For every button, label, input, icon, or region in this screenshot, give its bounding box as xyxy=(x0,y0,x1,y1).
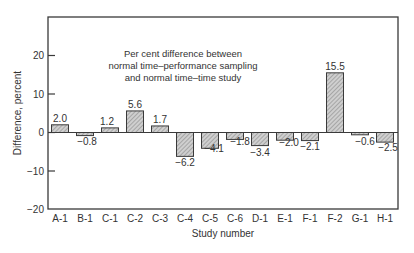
value-label: −2.5 xyxy=(378,142,398,153)
y-tick-label: 10 xyxy=(33,89,45,100)
title-line: and normal time–time study xyxy=(125,72,242,83)
y-tick-label: −20 xyxy=(27,204,44,215)
x-axis-title: Study number xyxy=(192,228,255,239)
chart-title-annotation: Per cent difference betweennormal time–p… xyxy=(109,48,258,83)
y-tick-label: −10 xyxy=(27,166,44,177)
plot-border xyxy=(48,17,398,209)
plot-frame xyxy=(48,17,398,209)
title-line: normal time–performance sampling xyxy=(109,60,258,71)
value-label: −0.8 xyxy=(77,136,97,147)
value-label: 1.2 xyxy=(100,116,114,127)
x-tick-label: A-1 xyxy=(52,213,68,224)
value-label: 2.0 xyxy=(53,113,67,124)
x-axis: A-1B-1C-1C-2C-3C-4C-5C-6D-1E-1F-1F-2G-1H… xyxy=(52,213,393,239)
x-tick-label: B-1 xyxy=(77,213,93,224)
bar-c-4 xyxy=(177,133,194,157)
bar-c-1 xyxy=(102,128,119,133)
x-tick-label: C-6 xyxy=(227,213,244,224)
value-label: −4.1 xyxy=(204,143,224,154)
x-tick-label: C-3 xyxy=(152,213,169,224)
x-tick-label: H-1 xyxy=(377,213,394,224)
bar-c-3 xyxy=(152,126,169,133)
value-label: 5.6 xyxy=(128,99,142,110)
x-tick-label: D-1 xyxy=(252,213,269,224)
bar-chart: 20100−10−20Difference, percent 2.0−0.81.… xyxy=(0,0,414,253)
x-tick-label: E-1 xyxy=(277,213,293,224)
x-tick-label: C-2 xyxy=(127,213,144,224)
value-label: −2.0 xyxy=(279,137,299,148)
value-label: −6.2 xyxy=(175,157,195,168)
x-tick-label: C-4 xyxy=(177,213,194,224)
x-tick-label: F-1 xyxy=(303,213,318,224)
bar-d-1 xyxy=(252,133,269,146)
x-tick-label: G-1 xyxy=(352,213,369,224)
value-label: 15.5 xyxy=(325,61,345,72)
y-tick-label: 0 xyxy=(38,127,44,138)
value-label: −1.8 xyxy=(230,136,250,147)
x-tick-label: C-5 xyxy=(202,213,219,224)
bar-c-2 xyxy=(127,111,144,133)
value-label: −3.4 xyxy=(250,147,270,158)
x-tick-label: F-2 xyxy=(328,213,343,224)
bar-a-1 xyxy=(52,125,69,133)
value-label: −0.6 xyxy=(355,136,375,147)
title-line: Per cent difference between xyxy=(124,48,242,59)
y-axis-title: Difference, percent xyxy=(12,71,23,156)
bar-g-1 xyxy=(352,133,369,135)
y-tick-label: 20 xyxy=(33,50,45,61)
bar-f-2 xyxy=(327,73,344,133)
bar-h-1 xyxy=(377,133,394,143)
x-tick-label: C-1 xyxy=(102,213,119,224)
value-label: −2.1 xyxy=(300,141,320,152)
bar-f-1 xyxy=(302,133,319,141)
value-label: 1.7 xyxy=(153,114,167,125)
